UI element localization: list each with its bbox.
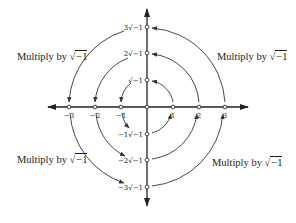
point-imag-neg2 bbox=[145, 158, 149, 162]
arc-q1-r2 bbox=[152, 54, 199, 102]
real-axis-labels: −3 −2 −1 1 2 3 bbox=[64, 112, 227, 120]
arc-q1-r1 bbox=[152, 81, 173, 102]
point-real-2 bbox=[197, 105, 201, 109]
label-imag-neg3: −3√−1 bbox=[118, 184, 143, 192]
arc-q2-r1 bbox=[121, 83, 131, 102]
point-imag-3 bbox=[145, 25, 149, 29]
arc-q2-r2 bbox=[95, 58, 128, 102]
point-origin bbox=[145, 105, 149, 109]
label-imag-3: 3√−1 bbox=[124, 24, 143, 32]
sqrt-minus-one: √−1 bbox=[270, 52, 288, 63]
annotation-top-left: Multiply by √−1 bbox=[17, 52, 87, 63]
point-real-neg3 bbox=[67, 105, 71, 109]
label-real-1: 1 bbox=[171, 112, 175, 120]
arc-q2-r3 bbox=[69, 31, 124, 102]
annotation-top-right: Multiply by √−1 bbox=[217, 52, 287, 63]
annotation-bottom-left: Multiply by √−1 bbox=[17, 155, 87, 166]
sqrt-minus-one: √−1 bbox=[265, 158, 283, 169]
sqrt-minus-one: √−1 bbox=[70, 52, 88, 63]
point-imag-neg1 bbox=[145, 132, 149, 136]
sqrt-minus-one: √−1 bbox=[70, 155, 88, 166]
arc-q4-r3 bbox=[152, 114, 223, 186]
point-real-neg1 bbox=[119, 105, 123, 109]
point-real-neg2 bbox=[93, 105, 97, 109]
label-real-2: 2 bbox=[197, 112, 201, 120]
annotation-bottom-right: Multiply by √−1 bbox=[212, 158, 282, 169]
label-real-3: 3 bbox=[223, 112, 227, 120]
label-imag-1: √−1 bbox=[128, 77, 143, 85]
arc-q1-r3 bbox=[152, 28, 225, 102]
label-real-neg3: −3 bbox=[64, 112, 74, 120]
point-imag-2 bbox=[145, 51, 149, 55]
point-imag-neg3 bbox=[145, 185, 149, 189]
point-imag-1 bbox=[145, 78, 149, 82]
complex-plane-diagram: −3 −2 −1 1 2 3 3√−1 2√−1 √−1 −1√−1 −2√−1… bbox=[0, 0, 296, 223]
arc-q4-r2 bbox=[152, 114, 197, 159]
label-real-neg2: −2 bbox=[90, 112, 100, 120]
arc-q3-r3 bbox=[70, 113, 124, 183]
label-imag-2: 2√−1 bbox=[124, 50, 143, 58]
label-imag-neg1: −1√−1 bbox=[118, 131, 143, 139]
point-real-3 bbox=[223, 105, 227, 109]
label-real-neg1: −1 bbox=[116, 112, 126, 120]
label-imag-neg2: −2√−1 bbox=[118, 157, 143, 165]
point-real-1 bbox=[171, 105, 175, 109]
arc-q4-r1 bbox=[152, 114, 171, 133]
